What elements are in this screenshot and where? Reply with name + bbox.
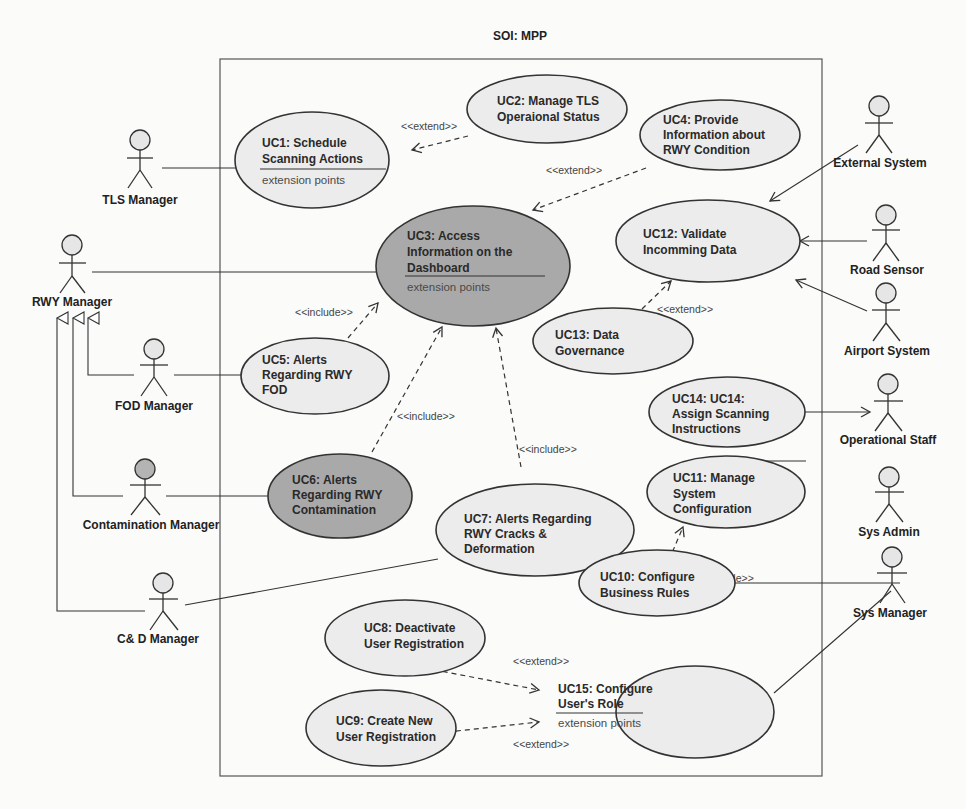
stereotype-extend-uc2-uc1: <<extend>>: [401, 120, 457, 132]
stereotype-include-uc6-uc3: <<include>>: [397, 410, 455, 422]
generalization-lines: [57, 318, 145, 611]
actor-label: FOD Manager: [115, 399, 193, 413]
actor-label: External System: [833, 156, 926, 170]
actor-fod-manager[interactable]: FOD Manager: [115, 339, 193, 413]
stick-figure-icon: [872, 283, 900, 341]
usecase-uc7-line3: Deformation: [464, 542, 535, 556]
stereotype-include-uc5-uc3: <<include>>: [295, 306, 353, 318]
usecase-uc4[interactable]: UC4: Provide Information about RWY Condi…: [640, 100, 800, 170]
use-case-diagram: SOI: MPP: [0, 0, 966, 809]
stick-figure-icon: [130, 459, 161, 515]
stereotype-extend-uc9-uc15: <<extend>>: [513, 738, 569, 750]
stereotype-extend-uc4-uc3: <<extend>>: [546, 164, 602, 176]
usecase-uc15[interactable]: UC15: Configure User's Role extension po…: [556, 666, 774, 758]
stick-figure-icon: [127, 130, 153, 188]
usecase-uc2-line1: UC2: Manage TLS: [497, 94, 599, 108]
stereotype-include-uc7-uc3: <<include>>: [519, 443, 577, 455]
actor-label: Airport System: [844, 344, 930, 358]
usecase-uc2[interactable]: UC2: Manage TLS Operaional Status: [467, 75, 627, 143]
usecase-uc6[interactable]: UC6: Alerts Regarding RWY Contamination: [268, 454, 412, 538]
usecase-uc4-line3: RWY Condition: [663, 143, 750, 157]
usecase-uc5-line3: FOD: [262, 383, 288, 397]
actor-label: Road Sensor: [850, 263, 924, 277]
usecase-uc2-line2: Operaional Status: [497, 110, 600, 124]
stick-figure-icon: [865, 96, 893, 153]
usecase-uc4-line1: UC4: Provide: [663, 113, 739, 127]
usecase-uc11[interactable]: UC11: Manage System Configuration: [647, 456, 805, 528]
system-title: SOI: MPP: [493, 29, 547, 43]
usecase-uc14-line1: UC14: UC14:: [672, 392, 745, 406]
usecase-uc7-line1: UC7: Alerts Regarding: [464, 512, 592, 526]
usecase-uc12-line2: Incomming Data: [643, 243, 737, 257]
usecase-uc10-line2: Business Rules: [600, 586, 690, 600]
usecase-uc10-line1: UC10: Configure: [600, 570, 695, 584]
usecase-uc14-line2: Assign Scanning: [672, 407, 769, 421]
stick-figure-icon: [149, 573, 178, 630]
usecase-uc1-line1: UC1: Schedule: [262, 136, 347, 150]
usecase-uc7-line2: RWY Cracks &: [464, 527, 547, 541]
usecase-uc14-line3: Instructions: [672, 422, 741, 436]
usecase-uc9-line2: User Registration: [336, 730, 436, 744]
actor-label: Sys Manager: [853, 606, 927, 620]
stick-figure-icon: [872, 205, 900, 261]
usecase-uc15-line1: UC15: Configure: [558, 682, 653, 696]
usecase-uc8[interactable]: UC8: Deactivate User Registration: [325, 600, 485, 676]
usecase-uc15-line2: User's Role: [558, 697, 624, 711]
usecase-uc8-line2: User Registration: [364, 637, 464, 651]
usecase-uc1[interactable]: UC1: Schedule Scanning Actions extension…: [235, 112, 389, 208]
usecase-uc13-line1: UC13: Data: [555, 328, 619, 342]
actor-label: Contamination Manager: [83, 518, 220, 532]
actor-operational-staff[interactable]: Operational Staff: [840, 374, 938, 447]
stereotype-extend-uc8-uc15: <<extend>>: [513, 655, 569, 667]
usecase-uc12[interactable]: UC12: Validate Incomming Data: [616, 200, 800, 282]
usecase-uc4-line2: Information about: [663, 128, 765, 142]
usecase-uc11-line1: UC11: Manage: [673, 471, 755, 485]
actor-airport-system[interactable]: Airport System: [844, 283, 930, 358]
usecase-uc3-line1: UC3: Access: [407, 229, 480, 243]
usecase-uc5-line2: Regarding RWY: [262, 368, 352, 382]
usecase-uc5[interactable]: UC5: Alerts Regarding RWY FOD: [241, 338, 389, 414]
usecase-uc1-extension-points: extension points: [262, 174, 345, 186]
actor-label: Operational Staff: [840, 433, 938, 447]
usecase-uc15-extension-points: extension points: [558, 717, 641, 729]
actor-label: RWY Manager: [32, 295, 113, 309]
stick-figure-icon: [875, 467, 904, 522]
usecase-uc6-line3: Contamination: [292, 503, 376, 517]
usecase-uc11-line2: System: [673, 487, 716, 501]
actor-label: TLS Manager: [102, 193, 178, 207]
usecase-uc3-line2: Information on the: [407, 245, 513, 259]
usecase-uc13[interactable]: UC13: Data Governance: [533, 308, 693, 374]
stick-figure-icon: [59, 235, 86, 293]
stereotype-extend-uc13-uc12: <<extend>>: [657, 303, 713, 315]
usecase-uc5-line1: UC5: Alerts: [262, 353, 327, 367]
usecase-uc12-line1: UC12: Validate: [643, 227, 727, 241]
actor-cd-manager[interactable]: C& D Manager: [117, 573, 199, 646]
usecase-uc10[interactable]: UC10: Configure Business Rules: [579, 550, 735, 616]
actor-external-system[interactable]: External System: [833, 96, 926, 170]
usecase-uc13-line2: Governance: [555, 344, 625, 358]
usecase-uc8-line1: UC8: Deactivate: [364, 621, 456, 635]
actor-label: C& D Manager: [117, 632, 199, 646]
stick-figure-icon: [874, 374, 903, 431]
actor-label: Sys Admin: [858, 525, 920, 539]
usecase-uc11-line3: Configuration: [673, 502, 752, 516]
usecase-uc6-line1: UC6: Alerts: [292, 473, 357, 487]
usecase-uc3-extension-points: extension points: [407, 281, 490, 293]
usecase-uc14[interactable]: UC14: UC14: Assign Scanning Instructions: [649, 377, 805, 447]
usecase-uc9[interactable]: UC9: Create New User Registration: [306, 690, 456, 766]
usecase-uc6-line2: Regarding RWY: [292, 488, 382, 502]
usecase-uc1-line2: Scanning Actions: [262, 152, 363, 166]
usecase-uc9-line1: UC9: Create New: [336, 714, 433, 728]
stick-figure-icon: [140, 339, 168, 396]
usecase-uc3[interactable]: UC3: Access Information on the Dashboard…: [376, 206, 570, 326]
usecase-uc3-line3: Dashboard: [407, 261, 470, 275]
stick-figure-icon: [877, 547, 907, 603]
actor-sys-admin[interactable]: Sys Admin: [858, 467, 920, 539]
directed-associations: [770, 145, 870, 412]
